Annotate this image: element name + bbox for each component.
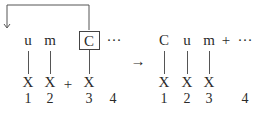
left-assoc-line-2 (50, 51, 51, 74)
right-x-2: X (182, 75, 193, 90)
right-num-2: 2 (184, 92, 191, 106)
right-num-1: 1 (161, 92, 168, 106)
right-assoc-line-3 (209, 51, 210, 74)
right-assoc-line-2 (187, 51, 188, 74)
right-top-ellipsis: ··· (238, 33, 253, 48)
right-x-1: X (159, 75, 170, 90)
left-top-c: C (84, 34, 94, 49)
right-top-u: u (183, 33, 191, 48)
left-num-1: 1 (25, 92, 32, 106)
left-num-4: 4 (110, 92, 117, 106)
left-assoc-line-3 (89, 50, 90, 74)
left-top-ellipsis: ··· (107, 33, 122, 48)
right-assoc-line-1 (164, 51, 165, 74)
left-x-1: X (23, 75, 34, 90)
transform-arrow-icon: → (131, 54, 146, 69)
left-assoc-line-1 (28, 51, 29, 74)
left-top-m: m (44, 33, 56, 48)
right-top-c: C (159, 33, 169, 48)
left-x-3: X (84, 75, 95, 90)
right-top-plus: + (222, 33, 230, 48)
left-top-u: u (24, 33, 32, 48)
right-num-3: 3 (206, 92, 213, 106)
right-top-m: m (203, 33, 215, 48)
right-num-4: 4 (242, 92, 249, 106)
right-x-3: X (204, 75, 215, 90)
left-num-2: 2 (47, 92, 54, 106)
left-plus: + (64, 77, 72, 92)
movement-arrow (0, 0, 257, 113)
left-num-3: 3 (86, 92, 93, 106)
left-x-2: X (45, 75, 56, 90)
